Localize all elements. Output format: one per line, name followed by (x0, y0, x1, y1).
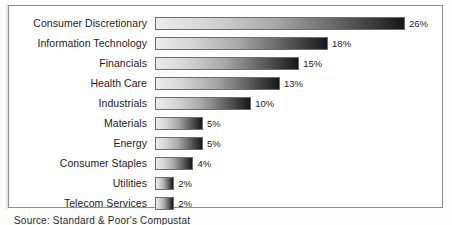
bar-category-label: Financials (9, 57, 155, 69)
bar-track: 18% (155, 37, 442, 50)
bar-track: 26% (155, 17, 442, 30)
bar-value-label: 13% (284, 78, 303, 89)
bar-value-label: 2% (178, 198, 192, 209)
bar-row: Industrials10% (9, 93, 442, 113)
bar-row: Health Care13% (9, 73, 442, 93)
bar-value-label: 26% (409, 18, 428, 29)
bar-row: Materials5% (9, 113, 442, 133)
figure-page: Consumer Discretionary26%Information Tec… (0, 0, 452, 225)
bar-row: Information Technology18% (9, 33, 442, 53)
bar-value-label: 18% (332, 38, 351, 49)
bar (155, 57, 299, 70)
source-note: Source: Standard & Poor's Compustat (14, 215, 190, 225)
bar-value-label: 5% (207, 138, 221, 149)
bar-track: 2% (155, 177, 442, 190)
bar-category-label: Health Care (9, 77, 155, 89)
bar-track: 5% (155, 117, 442, 130)
bar-value-label: 5% (207, 118, 221, 129)
bar (155, 137, 203, 150)
bar-track: 5% (155, 137, 442, 150)
bar-category-label: Energy (9, 137, 155, 149)
bar-category-label: Consumer Staples (9, 157, 155, 169)
bar-value-label: 10% (255, 98, 274, 109)
bar (155, 177, 174, 190)
bar-row: Utilities2% (9, 173, 442, 193)
bar-category-label: Consumer Discretionary (9, 17, 155, 29)
bar (155, 197, 174, 210)
bar-row: Telecom Services2% (9, 193, 442, 213)
bar-row: Consumer Staples4% (9, 153, 442, 173)
bar-track: 15% (155, 57, 442, 70)
chart-frame: Consumer Discretionary26%Information Tec… (8, 5, 443, 208)
bar-track: 10% (155, 97, 442, 110)
bar (155, 17, 405, 30)
bar-value-label: 2% (178, 178, 192, 189)
bar-value-label: 4% (197, 158, 211, 169)
bar-value-label: 15% (303, 58, 322, 69)
bar-row: Consumer Discretionary26% (9, 13, 442, 33)
bar-chart-rows: Consumer Discretionary26%Information Tec… (9, 13, 442, 213)
bar (155, 37, 328, 50)
bar (155, 97, 251, 110)
bar-row: Financials15% (9, 53, 442, 73)
bar-category-label: Telecom Services (9, 197, 155, 209)
bar (155, 77, 280, 90)
bar-category-label: Information Technology (9, 37, 155, 49)
bar-category-label: Utilities (9, 177, 155, 189)
bar-category-label: Industrials (9, 97, 155, 109)
bar (155, 157, 193, 170)
bar (155, 117, 203, 130)
bar-track: 4% (155, 157, 442, 170)
bar-track: 13% (155, 77, 442, 90)
bar-row: Energy5% (9, 133, 442, 153)
bar-category-label: Materials (9, 117, 155, 129)
bar-track: 2% (155, 197, 442, 210)
